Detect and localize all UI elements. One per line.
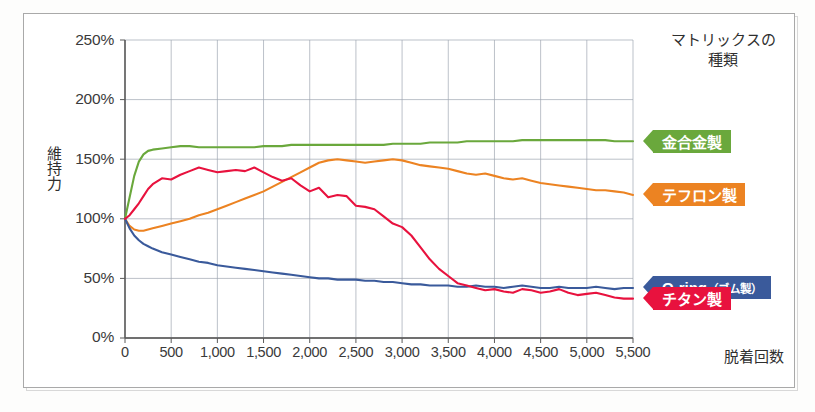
y-tick-label-200: 200% [52,90,114,108]
y-tick-label-100: 100% [52,209,114,227]
y-tick-label-250: 250% [52,31,114,49]
series-group [125,140,633,299]
legend-item-label-1: テフロン製 [662,184,737,205]
legend-item-label-3: チタン製 [662,288,722,309]
legend-title-line2: 種類 [648,50,798,70]
y-axis-title-text: 維持力 [46,146,63,191]
y-tick-label-50: 50% [52,269,114,287]
legend-title-line1: マトリックスの [648,30,798,50]
legend-item-3[interactable]: チタン製 [653,287,731,310]
legend-callout-notch-3 [643,287,653,309]
x-axis-title: 脱着回数 [724,345,784,366]
series-line-1 [125,159,633,231]
y-axis-title: 維持力 [44,146,64,194]
legend-item-0[interactable]: 金合金製 [653,130,731,153]
legend-callout-notch-0 [643,130,653,152]
series-line-0 [125,140,633,219]
axis-lines [120,40,633,343]
legend-title: マトリックスの 種類 [648,30,798,70]
x-tick-label-5500: 5,500 [603,344,663,360]
gridlines [125,40,633,338]
chart-page: 250% 200% 150% 100% 50% 0% 維持力 05001,000… [0,0,815,412]
legend-item-label-0: 金合金製 [662,131,722,152]
series-line-3 [125,168,633,299]
legend-item-1[interactable]: テフロン製 [653,183,745,206]
legend-callout-notch-1 [643,183,653,205]
